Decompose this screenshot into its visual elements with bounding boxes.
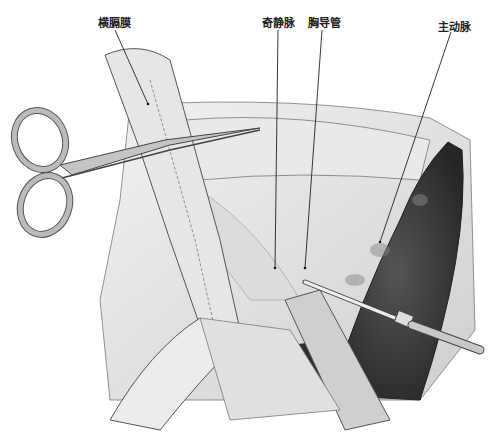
surgical-illustration — [0, 0, 488, 436]
label-thoracic-duct: 胸导管 — [308, 14, 341, 30]
label-aorta: 主动脉 — [438, 18, 471, 34]
label-diaphragm: 横膈膜 — [98, 14, 131, 30]
label-azygos-vein: 奇静脉 — [262, 14, 295, 30]
